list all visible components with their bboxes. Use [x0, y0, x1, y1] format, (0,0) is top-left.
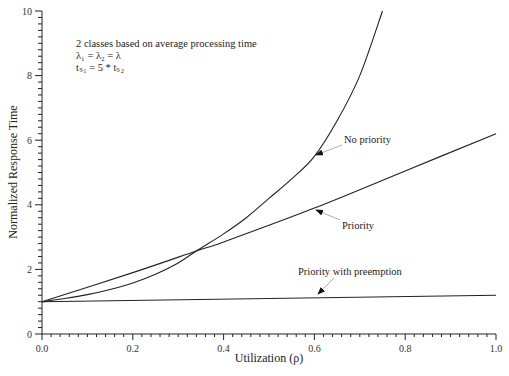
- y-axis-label: Normalized Response Time: [6, 105, 20, 238]
- x-axis-label: Utilization (ρ): [235, 351, 303, 365]
- label-priority: Priority: [342, 220, 375, 231]
- annotation-line-2: λ₁ = λ₂ = λ: [76, 50, 122, 61]
- y-tick-label: 6: [27, 135, 32, 146]
- annotation-block: 2 classes based on average processing ti…: [76, 38, 257, 73]
- x-tick-label: 0.4: [217, 343, 230, 354]
- x-tick-label: 0.2: [127, 343, 140, 354]
- x-tick-label: 0.0: [36, 343, 49, 354]
- y-tick-label: 8: [27, 70, 32, 81]
- y-tick-label: 0: [27, 329, 32, 340]
- x-tick-label: 0.6: [308, 343, 321, 354]
- arrow-no-priority: [316, 145, 342, 155]
- label-no-priority: No priority: [344, 134, 392, 145]
- series-priority-line: [42, 134, 496, 302]
- arrow-preemption: [318, 278, 334, 294]
- x-tick-label: 0.8: [399, 343, 412, 354]
- y-tick-label: 4: [27, 199, 32, 210]
- response-time-chart: 0.00.20.40.60.81.00246810 Utilization (ρ…: [0, 0, 509, 376]
- x-tick-label: 1.0: [490, 343, 503, 354]
- label-priority-with-preemption: Priority with preemption: [298, 266, 403, 277]
- series-priority-with-preemption-line: [42, 295, 496, 301]
- annotation-line-3: tₛ₁ = 5 * tₛ₂: [76, 62, 124, 73]
- y-tick-label: 2: [27, 264, 32, 275]
- y-tick-label: 10: [22, 6, 32, 17]
- annotation-line-1: 2 classes based on average processing ti…: [76, 38, 257, 49]
- arrow-priority: [316, 210, 340, 220]
